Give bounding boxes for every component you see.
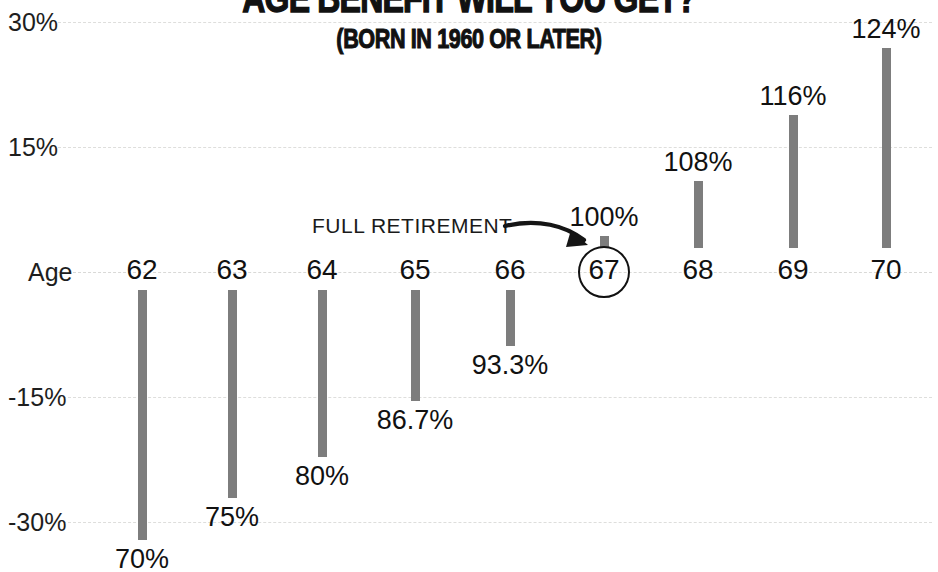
- axis-label-age: Age: [28, 258, 72, 287]
- y-tick-label: 30%: [8, 8, 58, 37]
- age-label-65: 65: [399, 254, 430, 286]
- bar-age-66: [506, 290, 515, 346]
- bar-age-65: [411, 290, 420, 401]
- gridline: [58, 147, 932, 148]
- y-tick-label: -30%: [8, 507, 66, 536]
- age-label-70: 70: [870, 254, 901, 286]
- y-tick-label: 15%: [8, 133, 58, 162]
- bar-age-68: [694, 181, 703, 248]
- age-label-62: 62: [126, 254, 157, 286]
- value-label-age-62: 70%: [115, 544, 169, 572]
- value-label-age-63: 75%: [205, 502, 259, 533]
- age-label-68: 68: [682, 254, 713, 286]
- age-label-64: 64: [306, 254, 337, 286]
- value-label-age-70: 124%: [851, 14, 920, 45]
- value-label-age-66: 93.3%: [472, 350, 549, 381]
- gridline: [58, 522, 932, 523]
- bar-age-69: [789, 115, 798, 248]
- y-tick-label: -15%: [8, 382, 66, 411]
- bar-age-64: [318, 290, 327, 457]
- gridline: [58, 397, 932, 398]
- full-retirement-highlight-circle: [578, 246, 630, 298]
- full-retirement-annotation: FULL RETIREMENT: [312, 214, 512, 238]
- chart-title: AGE BENEFIT WILL YOU GET?: [94, 0, 844, 21]
- bar-age-62: [138, 290, 147, 540]
- value-label-age-64: 80%: [295, 461, 349, 492]
- bar-age-63: [228, 290, 237, 498]
- chart-subtitle: (BORN IN 1960 OR LATER): [94, 24, 844, 55]
- value-label-age-68: 108%: [663, 147, 732, 178]
- value-label-age-67: 100%: [569, 202, 638, 233]
- value-label-age-65: 86.7%: [377, 405, 454, 436]
- age-label-63: 63: [216, 254, 247, 286]
- bar-age-70: [882, 48, 891, 248]
- age-label-66: 66: [494, 254, 525, 286]
- value-label-age-69: 116%: [759, 81, 826, 112]
- age-label-69: 69: [777, 254, 808, 286]
- gridline: [58, 22, 932, 23]
